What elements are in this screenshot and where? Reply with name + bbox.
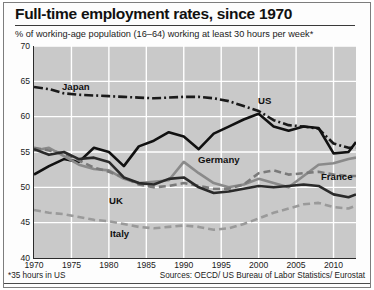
y-tick-60: 60 — [8, 112, 30, 121]
x-tick-1990: 1990 — [164, 261, 204, 270]
x-tick-1985: 1985 — [126, 261, 166, 270]
x-tick-1995: 1995 — [201, 261, 241, 270]
x-tick-2000: 2000 — [239, 261, 279, 270]
series-line-france — [34, 148, 356, 189]
sources-note: Sources: OECD/ US Bureau of Labor Statis… — [160, 271, 365, 280]
series-label-japan: Japan — [62, 82, 90, 92]
title-divider — [15, 25, 355, 26]
series-line-italy — [34, 203, 356, 230]
series-label-italy: Italy — [110, 229, 129, 239]
y-tick-70: 70 — [8, 42, 30, 51]
line-chart-svg — [34, 46, 356, 258]
y-tick-50: 50 — [8, 183, 30, 192]
x-tick-1970: 1970 — [14, 261, 54, 270]
y-tick-55: 55 — [8, 148, 30, 157]
plot-area — [34, 46, 356, 258]
gridlines — [34, 46, 356, 258]
series-line-japan — [34, 87, 356, 148]
data-series-group — [34, 87, 356, 230]
x-axis-line — [33, 258, 356, 259]
series-label-uk: UK — [109, 196, 123, 206]
chart-subtitle: % of working-age population (16–64) work… — [15, 28, 360, 40]
y-tick-65: 65 — [8, 77, 30, 86]
x-tick-1980: 1980 — [89, 261, 129, 270]
series-label-france: France — [321, 172, 352, 182]
series-label-germany: Germany — [198, 155, 240, 165]
footnote: *35 hours in US — [8, 271, 65, 280]
x-tick-1975: 1975 — [51, 261, 91, 270]
y-axis-line — [33, 46, 34, 259]
x-tick-2005: 2005 — [276, 261, 316, 270]
page-title: Full-time employment rates, since 1970 — [15, 5, 355, 23]
series-label-us: US — [258, 96, 271, 106]
chart-figure: Full-time employment rates, since 1970 %… — [0, 0, 374, 290]
series-line-germany — [34, 148, 356, 188]
y-tick-45: 45 — [8, 218, 30, 227]
x-tick-2010: 2010 — [314, 261, 354, 270]
bottom-divider — [4, 283, 370, 284]
